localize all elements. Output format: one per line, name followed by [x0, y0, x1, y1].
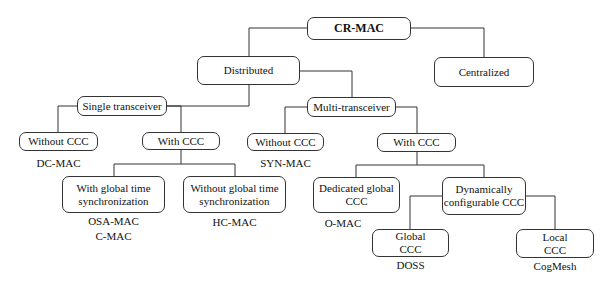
node-dynamic-line1: Dynamically	[456, 183, 513, 196]
node-with-global-time-line1: With global time	[76, 182, 150, 195]
node-st-with-ccc: With CCC	[142, 132, 220, 150]
protocol-doss: DOSS	[372, 258, 449, 272]
node-st-without-ccc: Without CCC	[19, 132, 98, 151]
node-without-global-time-line1: Without global time	[190, 182, 278, 195]
protocol-hc-mac: HC-MAC	[183, 215, 286, 229]
node-single-transceiver: Single transceiver	[77, 96, 167, 116]
protocol-c-mac: C-MAC	[62, 229, 165, 243]
protocol-cogmesh: CogMesh	[516, 259, 594, 273]
node-global-ccc-line2: CCC	[399, 243, 421, 256]
node-cr-mac: CR-MAC	[307, 17, 411, 40]
node-local-ccc-line1: Local	[542, 231, 567, 244]
protocol-syn-mac: SYN-MAC	[247, 156, 324, 170]
node-multi-transceiver: Multi-transceiver	[307, 97, 396, 117]
node-with-global-time: With global time synchronization	[62, 176, 165, 213]
protocol-dc-mac: DC-MAC	[19, 156, 98, 170]
node-centralized: Centralized	[434, 57, 534, 87]
node-global-ccc: Global CCC	[372, 229, 449, 257]
node-with-global-time-line2: synchronization	[78, 195, 148, 208]
protocol-osa-mac: OSA-MAC	[62, 214, 165, 228]
node-dedicated-global-line2: CCC	[345, 195, 367, 208]
node-local-ccc-line2: CCC	[544, 244, 566, 257]
node-distributed: Distributed	[197, 56, 300, 85]
node-mt-with-ccc: With CCC	[377, 133, 456, 152]
node-dedicated-global-ccc: Dedicated global CCC	[313, 177, 400, 213]
node-local-ccc: Local CCC	[516, 229, 594, 258]
node-dedicated-global-line1: Dedicated global	[319, 182, 394, 195]
protocol-o-mac: O-MAC	[313, 216, 373, 230]
node-global-ccc-line1: Global	[396, 230, 426, 243]
node-dynamic-line2: configurable CCC	[444, 196, 524, 209]
node-mt-without-ccc: Without CCC	[247, 133, 324, 151]
node-without-global-time-line2: synchronization	[199, 195, 269, 208]
node-dynamically-configurable-ccc: Dynamically configurable CCC	[442, 177, 526, 215]
node-without-global-time: Without global time synchronization	[183, 176, 286, 213]
